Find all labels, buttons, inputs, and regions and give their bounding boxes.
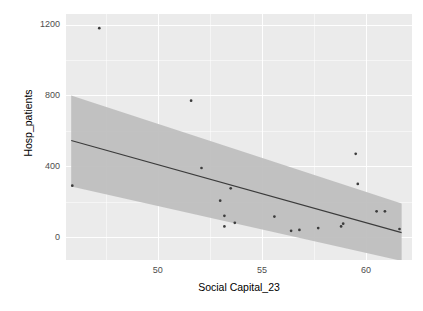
plot-panel [66, 14, 412, 260]
chart-geometry [66, 14, 412, 260]
data-point [190, 99, 193, 102]
x-tick-label: 55 [242, 266, 282, 275]
data-point [398, 228, 401, 231]
data-point [356, 183, 359, 186]
data-point [375, 210, 378, 213]
x-axis-ticks: 50 55 60 [0, 266, 423, 280]
data-point [342, 222, 345, 225]
x-axis-title: Social Capital_23 [66, 281, 412, 293]
data-point [354, 152, 357, 155]
data-point [98, 27, 101, 30]
data-point [317, 227, 320, 230]
data-point [340, 225, 343, 228]
x-tick-label: 50 [138, 266, 178, 275]
y-tick-label: 0 [4, 233, 60, 242]
y-tick-label: 1200 [4, 20, 60, 29]
data-point [233, 221, 236, 224]
data-point [298, 229, 301, 232]
data-point [219, 199, 222, 202]
data-point [223, 214, 226, 217]
data-point [229, 187, 232, 190]
x-tick-label: 60 [346, 266, 386, 275]
data-point [384, 210, 387, 213]
chart-figure: 1200 800 400 0 50 55 60 Social Capital_2… [0, 0, 423, 311]
data-point [290, 229, 293, 232]
data-point [71, 184, 74, 187]
y-axis-title: Hosp_patients [22, 33, 34, 213]
data-point [223, 225, 226, 228]
confidence-band [71, 95, 401, 260]
data-point [200, 167, 203, 170]
data-point [273, 215, 276, 218]
